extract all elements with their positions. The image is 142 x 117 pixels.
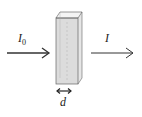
incident-intensity-label: I0	[18, 32, 26, 47]
diagram-canvas	[0, 0, 142, 117]
path-length-arrow	[57, 89, 71, 94]
incident-arrow	[7, 48, 49, 58]
transmitted-arrow	[91, 48, 133, 58]
cuvette	[56, 12, 82, 84]
path-length-label: d	[60, 96, 66, 108]
transmitted-intensity-label: I	[105, 32, 109, 44]
